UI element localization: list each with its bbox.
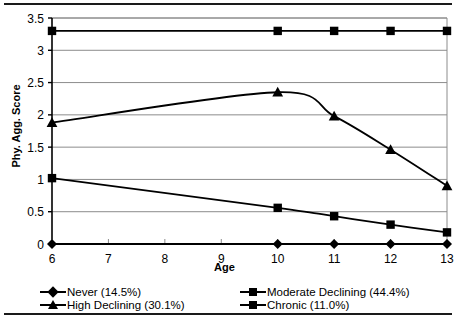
chart-legend: Never (14.5%) High Declining (30.1%) Mod… bbox=[40, 285, 452, 311]
data-point-marker bbox=[48, 174, 56, 182]
data-point-marker bbox=[274, 27, 282, 35]
bottom-rule-divider bbox=[4, 313, 452, 315]
svg-text:1.5: 1.5 bbox=[27, 141, 44, 155]
data-series-group bbox=[47, 27, 453, 249]
legend-label-chronic: Chronic (11.0%) bbox=[267, 299, 349, 311]
legend-marker-triangle-icon bbox=[40, 298, 66, 311]
data-point-marker bbox=[442, 180, 453, 190]
data-point-marker bbox=[386, 220, 394, 228]
legend-item-never[interactable]: Never (14.5%) bbox=[40, 285, 185, 298]
svg-text:7: 7 bbox=[105, 252, 112, 266]
data-point-marker bbox=[385, 144, 396, 154]
legend-label-high-declining: High Declining (30.1%) bbox=[67, 299, 185, 311]
svg-text:13: 13 bbox=[440, 252, 454, 266]
legend-marker-diamond-icon bbox=[40, 285, 66, 298]
figure-container: Phy. Agg. Score Age 00.511.522.533.5 678… bbox=[0, 0, 456, 324]
legend-marker-square-icon bbox=[240, 285, 266, 298]
legend-item-chronic[interactable]: Chronic (11.0%) bbox=[240, 298, 410, 311]
svg-text:2: 2 bbox=[37, 108, 44, 122]
svg-text:0: 0 bbox=[37, 238, 44, 252]
data-point-marker bbox=[386, 27, 394, 35]
svg-text:3.5: 3.5 bbox=[27, 12, 44, 26]
legend-column-right: Moderate Declining (44.4%) Chronic (11.0… bbox=[240, 285, 410, 311]
svg-text:1: 1 bbox=[37, 173, 44, 187]
data-point-marker bbox=[330, 212, 338, 220]
legend-item-moderate-declining[interactable]: Moderate Declining (44.4%) bbox=[240, 285, 410, 298]
x-tick-labels-group: 678910111213 bbox=[49, 252, 454, 266]
svg-text:10: 10 bbox=[271, 252, 285, 266]
data-point-marker bbox=[274, 204, 282, 212]
legend-label-moderate-declining: Moderate Declining (44.4%) bbox=[267, 286, 410, 298]
data-point-marker bbox=[329, 111, 340, 121]
series-line bbox=[52, 92, 447, 186]
data-point-marker bbox=[386, 239, 396, 249]
data-point-marker bbox=[442, 239, 452, 249]
data-point-marker bbox=[273, 239, 283, 249]
svg-text:0.5: 0.5 bbox=[27, 205, 44, 219]
plot-frame bbox=[52, 18, 447, 244]
svg-text:3: 3 bbox=[37, 44, 44, 58]
svg-text:2.5: 2.5 bbox=[27, 76, 44, 90]
svg-text:9: 9 bbox=[218, 252, 225, 266]
legend-label-never: Never (14.5%) bbox=[67, 286, 141, 298]
data-point-marker bbox=[443, 228, 451, 236]
legend-marker-square-icon bbox=[240, 298, 266, 311]
legend-item-high-declining[interactable]: High Declining (30.1%) bbox=[40, 298, 185, 311]
svg-text:12: 12 bbox=[384, 252, 398, 266]
svg-text:6: 6 bbox=[49, 252, 56, 266]
svg-text:11: 11 bbox=[328, 252, 341, 266]
svg-text:8: 8 bbox=[162, 252, 169, 266]
data-point-marker bbox=[330, 27, 338, 35]
data-point-marker bbox=[47, 239, 57, 249]
data-point-marker bbox=[443, 27, 451, 35]
data-point-marker bbox=[48, 27, 56, 35]
line-chart-plot: 00.511.522.533.5 678910111213 bbox=[0, 0, 456, 324]
gridlines-group bbox=[52, 18, 447, 212]
y-tick-labels-group: 00.511.522.533.5 bbox=[27, 12, 44, 252]
data-point-marker bbox=[329, 239, 339, 249]
legend-column-left: Never (14.5%) High Declining (30.1%) bbox=[40, 285, 185, 311]
